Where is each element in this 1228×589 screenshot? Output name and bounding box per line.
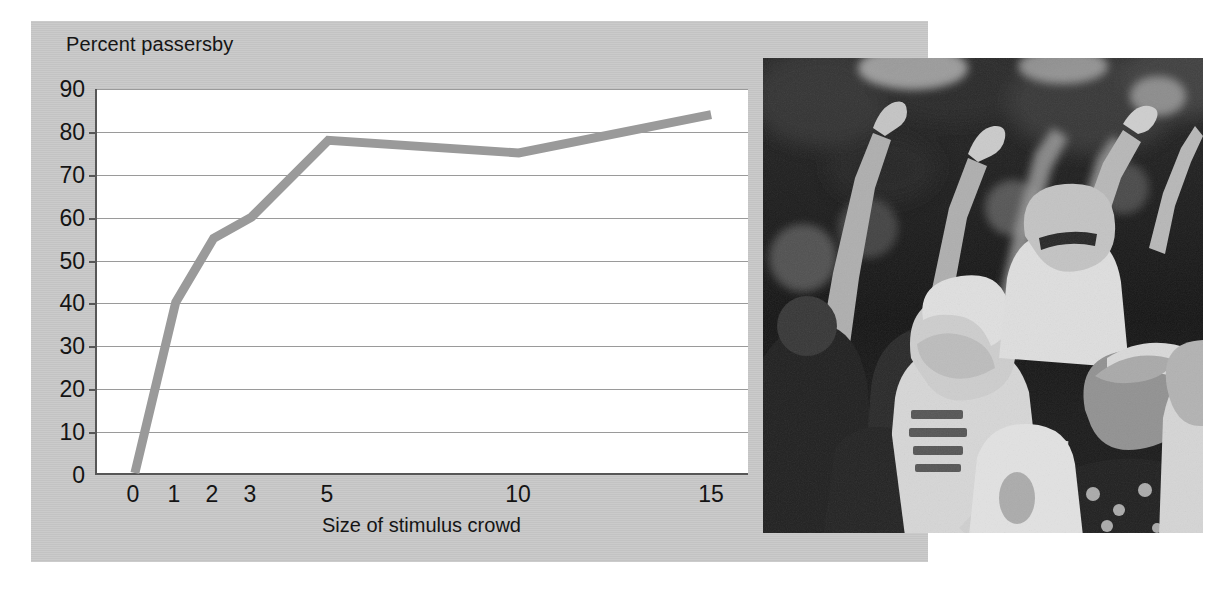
y-axis-tick-label: 50 bbox=[59, 247, 85, 274]
y-axis-tick-label: 20 bbox=[59, 376, 85, 403]
y-axis-tick-mark bbox=[89, 432, 96, 434]
y-axis-caption: Percent passersby bbox=[66, 33, 233, 56]
y-axis-tick-labels: 0102030405060708090 bbox=[33, 89, 85, 475]
y-axis-tick-mark bbox=[89, 132, 96, 134]
figure-root: Percent passersby 0102030405060708090 01… bbox=[0, 0, 1228, 589]
y-axis-tick-label: 90 bbox=[59, 76, 85, 103]
y-axis-tick-label: 80 bbox=[59, 118, 85, 145]
x-axis-tick-label: 0 bbox=[127, 481, 140, 508]
y-axis-tick-mark bbox=[89, 389, 96, 391]
crowd-looking-up-photograph bbox=[763, 58, 1203, 533]
y-axis-tick-label: 10 bbox=[59, 419, 85, 446]
x-axis-tick-label: 1 bbox=[168, 481, 181, 508]
y-axis-tick-mark bbox=[89, 303, 96, 305]
y-axis-tick-marks bbox=[89, 89, 97, 475]
x-axis-tick-label: 5 bbox=[321, 481, 334, 508]
x-axis-tick-label: 3 bbox=[244, 481, 257, 508]
y-axis-tick-label: 70 bbox=[59, 161, 85, 188]
y-axis-tick-mark bbox=[89, 261, 96, 263]
x-axis-tick-label: 10 bbox=[505, 481, 531, 508]
y-axis-tick-label: 40 bbox=[59, 290, 85, 317]
x-axis-tick-label: 2 bbox=[206, 481, 219, 508]
y-axis-tick-mark bbox=[89, 218, 96, 220]
y-axis-tick-mark bbox=[89, 175, 96, 177]
x-axis-tick-label: 15 bbox=[698, 481, 724, 508]
y-axis-tick-mark bbox=[89, 346, 96, 348]
plot-area bbox=[95, 89, 748, 475]
y-axis-tick-label: 60 bbox=[59, 204, 85, 231]
y-axis-tick-label: 30 bbox=[59, 333, 85, 360]
data-series-line bbox=[97, 89, 748, 473]
x-axis-caption: Size of stimulus crowd bbox=[95, 514, 748, 537]
